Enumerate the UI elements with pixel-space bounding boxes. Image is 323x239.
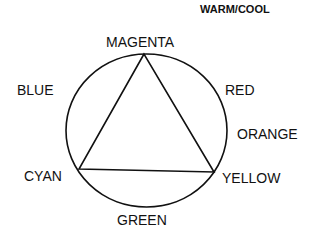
label-magenta: MAGENTA — [106, 34, 174, 50]
color-circle — [66, 54, 227, 207]
primary-triangle — [79, 54, 214, 172]
label-green: GREEN — [117, 212, 167, 228]
label-orange: ORANGE — [237, 126, 298, 142]
label-yellow: YELLOW — [222, 170, 280, 186]
label-red: RED — [225, 82, 255, 98]
label-cyan: CYAN — [24, 168, 62, 184]
label-blue: BLUE — [17, 82, 54, 98]
